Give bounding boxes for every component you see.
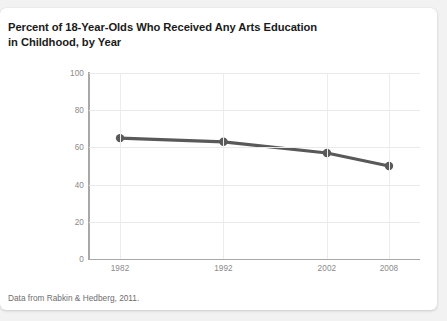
figure-card: Percent of 18-Year-Olds Who Received Any…	[0, 8, 437, 310]
y-axis-tick-label: 0	[58, 255, 84, 264]
y-axis-tick-label: 60	[58, 143, 84, 152]
gridline-horizontal	[89, 147, 420, 148]
x-axis-tick-label: 2002	[318, 264, 337, 273]
x-axis-tick-labels: 1982199220022008	[89, 264, 420, 278]
chart-footnote: Data from Rabkin & Hedberg, 2011.	[8, 293, 139, 303]
gridline-vertical	[223, 73, 224, 259]
y-axis-tick-label: 100	[58, 69, 84, 78]
x-axis-tick-label: 1982	[111, 264, 130, 273]
gridline-vertical	[120, 73, 121, 259]
gridline-horizontal	[89, 185, 420, 186]
series-line	[120, 138, 389, 166]
y-axis-tick-label: 40	[58, 180, 84, 189]
y-axis-tick-label: 20	[58, 217, 84, 226]
plot-wrapper: 020406080100 1982199220022008	[0, 8, 437, 310]
gridline-horizontal	[89, 110, 420, 111]
gridline-vertical	[327, 73, 328, 259]
x-axis-tick-label: 2008	[380, 264, 399, 273]
y-axis-tick-label: 80	[58, 106, 84, 115]
y-axis-tick-labels: 020406080100	[52, 73, 84, 259]
x-axis-line	[89, 259, 420, 260]
gridline-horizontal	[89, 73, 420, 74]
gridline-vertical	[389, 73, 390, 259]
x-axis-tick-label: 1992	[214, 264, 233, 273]
gridline-horizontal	[89, 222, 420, 223]
plot-area	[89, 73, 420, 259]
line-series	[89, 73, 420, 259]
